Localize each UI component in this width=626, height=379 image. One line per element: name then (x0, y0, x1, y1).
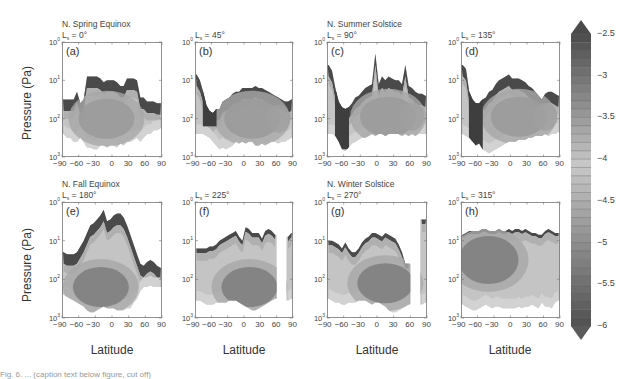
y-tick-e-2: 102 (40, 273, 60, 284)
panel-plot-c (327, 42, 427, 157)
y-tick-h-1: 101 (439, 235, 459, 246)
y-tick-c-0: 100 (305, 36, 325, 47)
panel-c (327, 42, 427, 157)
y-tick-e-0: 100 (40, 196, 60, 207)
x-tick-f-4: 30 (255, 320, 264, 329)
x-tick-f-2: −30 (219, 320, 233, 329)
panel-ls-a: Ls = 0° (62, 30, 87, 41)
x-tick-e-2: −30 (86, 320, 100, 329)
x-tick-h-2: −30 (485, 320, 499, 329)
x-axis-label-1: Latitude (57, 343, 167, 357)
x-tick-h-1: −60 (469, 320, 483, 329)
panel-d (461, 42, 560, 157)
x-tick-a-2: −30 (86, 159, 100, 168)
y-tick-b-1: 101 (173, 74, 193, 85)
panel-b (195, 42, 293, 157)
x-tick-f-6: 90 (288, 320, 297, 329)
panel-season-e: N. Fall Equinox (62, 180, 120, 189)
panel-season-a: N. Spring Equinox (62, 20, 131, 29)
x-tick-g-1: −60 (335, 320, 349, 329)
x-tick-a-1: −60 (70, 159, 84, 168)
x-tick-d-2: −30 (485, 159, 499, 168)
panel-ls-c: Ls = 90° (327, 30, 357, 41)
x-tick-b-4: 30 (255, 159, 264, 168)
colorbar-tick-3: −4 (597, 153, 607, 163)
y-tick-a-0: 100 (40, 36, 60, 47)
y-tick-c-2: 102 (305, 113, 325, 124)
y-tick-h-0: 100 (439, 196, 459, 207)
colorbar-gradient (571, 20, 593, 340)
x-tick-h-4: 30 (522, 320, 531, 329)
x-tick-a-4: 30 (124, 159, 133, 168)
x-tick-f-5: 60 (272, 320, 281, 329)
x-tick-f-0: −90 (186, 320, 200, 329)
panel-plot-d (461, 42, 560, 157)
x-tick-c-3: 0 (375, 159, 379, 168)
x-tick-d-4: 30 (522, 159, 531, 168)
colorbar-tick-4: −4.5 (597, 195, 615, 205)
panel-ls-f: Ls = 225° (195, 190, 230, 201)
panel-label-a: (a) (66, 45, 79, 57)
x-tick-c-1: −60 (335, 159, 349, 168)
panel-plot-h (461, 202, 560, 318)
x-tick-h-5: 60 (539, 320, 548, 329)
x-tick-c-0: −90 (318, 159, 332, 168)
y-tick-f-2: 102 (173, 273, 193, 284)
panel-ls-d: Ls = 135° (461, 30, 496, 41)
panel-label-d: (d) (465, 45, 478, 57)
x-tick-e-0: −90 (53, 320, 67, 329)
x-tick-e-3: 0 (110, 320, 114, 329)
panel-label-e: (e) (66, 205, 79, 217)
colorbar-tick-1: −3 (597, 70, 607, 80)
x-tick-g-4: 30 (389, 320, 398, 329)
panel-plot-b (195, 42, 293, 157)
x-tick-g-3: 0 (375, 320, 379, 329)
panel-ls-b: Ls = 45° (195, 30, 225, 41)
x-tick-b-3: 0 (242, 159, 246, 168)
x-tick-c-6: 90 (422, 159, 431, 168)
x-tick-b-6: 90 (288, 159, 297, 168)
y-tick-a-2: 102 (40, 113, 60, 124)
y-tick-g-0: 100 (305, 196, 325, 207)
x-tick-c-5: 60 (405, 159, 414, 168)
panel-a (62, 42, 162, 157)
x-tick-g-0: −90 (318, 320, 332, 329)
y-tick-c-1: 101 (305, 74, 325, 85)
x-tick-h-3: 0 (508, 320, 512, 329)
colorbar-tick-2: −3.5 (597, 111, 615, 121)
y-tick-g-1: 101 (305, 235, 325, 246)
panel-label-b: (b) (199, 45, 212, 57)
x-tick-b-2: −30 (219, 159, 233, 168)
x-tick-a-0: −90 (53, 159, 67, 168)
panel-ls-g: Ls = 270° (327, 190, 362, 201)
x-tick-a-5: 60 (140, 159, 149, 168)
x-tick-g-6: 90 (422, 320, 431, 329)
panel-f (195, 202, 293, 318)
y-tick-d-0: 100 (439, 36, 459, 47)
x-tick-h-0: −90 (452, 320, 466, 329)
y-tick-f-1: 101 (173, 235, 193, 246)
y-tick-d-1: 101 (439, 74, 459, 85)
x-tick-g-5: 60 (405, 320, 414, 329)
y-tick-d-2: 102 (439, 113, 459, 124)
colorbar-tick-6: −5.5 (597, 278, 615, 288)
y-axis-label-bottom: Pressure (Pa) (20, 228, 34, 302)
x-tick-d-0: −90 (452, 159, 466, 168)
panel-ls-e: Ls = 180° (62, 190, 97, 201)
colorbar-tick-7: −6 (597, 320, 607, 330)
x-tick-f-1: −60 (202, 320, 216, 329)
panel-label-f: (f) (199, 205, 209, 217)
y-tick-h-2: 102 (439, 273, 459, 284)
x-axis-label-2: Latitude (189, 343, 299, 357)
x-tick-d-6: 90 (555, 159, 564, 168)
panel-e (62, 202, 162, 318)
y-axis-label-top: Pressure (Pa) (20, 66, 34, 140)
panel-plot-a (62, 42, 162, 157)
y-tick-f-0: 100 (173, 196, 193, 207)
x-tick-f-3: 0 (242, 320, 246, 329)
panel-plot-e (62, 202, 162, 318)
x-tick-e-6: 90 (157, 320, 166, 329)
panel-season-g: N. Winter Solstice (327, 180, 395, 189)
panel-label-h: (h) (465, 205, 478, 217)
x-axis-label-4: Latitude (455, 343, 565, 357)
